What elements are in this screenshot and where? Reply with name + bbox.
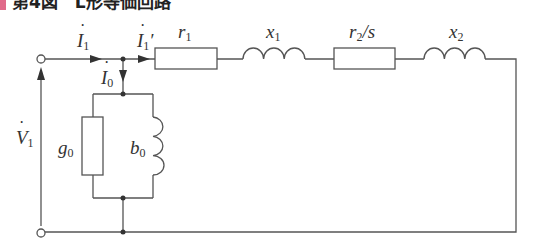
junction-dot (121, 230, 126, 235)
label-V1: V1 (16, 128, 34, 149)
resistor-r1 (155, 48, 217, 69)
input-terminal-bottom (37, 229, 45, 237)
label-b0: b0 (130, 138, 146, 159)
label-x1: x1 (266, 22, 280, 43)
current-arrow-I1-prime (138, 55, 150, 63)
label-x2: x2 (449, 22, 463, 43)
current-arrow-I1 (90, 55, 102, 63)
voltage-arrow-head (37, 67, 45, 80)
junction-dot (121, 57, 126, 62)
junction-dot (121, 92, 126, 97)
label-r1: r1 (178, 22, 191, 43)
top-wire (45, 59, 516, 232)
label-I0: I0 (101, 68, 113, 89)
inductor-b0 (153, 117, 164, 175)
junction-dot (121, 196, 126, 201)
inductor-x2 (424, 48, 485, 59)
current-arrow-I0 (119, 70, 127, 82)
inductor-x1 (243, 48, 305, 59)
label-I1: I1 (77, 31, 89, 52)
label-I1-prime: I1′ (137, 31, 153, 52)
label-r2-over-s: r2/s (349, 22, 375, 43)
resistor-g0 (82, 117, 103, 175)
label-g0: g0 (58, 138, 74, 159)
resistor-r2-over-s (334, 48, 395, 69)
input-terminal-top (37, 55, 45, 63)
